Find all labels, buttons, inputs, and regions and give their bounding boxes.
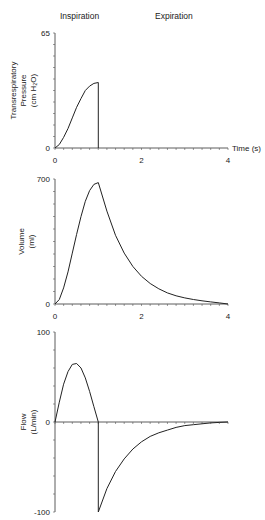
y-tick-label: 0 (46, 418, 51, 427)
y-tick-label: 100 (37, 328, 51, 337)
volume-curve (55, 183, 228, 304)
y-axis-label: Flow (19, 413, 28, 430)
x-tick-label: 0 (53, 312, 58, 321)
x-tick-label: 2 (139, 156, 144, 165)
y-tick-label: 700 (37, 175, 51, 184)
y-axis-label: (cm H₂O) (29, 74, 38, 108)
y-tick-label: 65 (41, 29, 50, 38)
x-axis-label: Time (s) (232, 144, 261, 153)
flow-panel: -1000100Flow(L/min) (19, 328, 228, 517)
pressure-curve (55, 83, 98, 149)
x-tick-label: 2 (139, 312, 144, 321)
inspiration-label: Inspiration (60, 11, 99, 21)
volume-panel: 0700024Volume(ml) (17, 175, 231, 321)
respiratory-waveform-figure: Inspiration Expiration 065024Time (s)Tra… (0, 0, 265, 520)
x-tick-label: 0 (53, 156, 58, 165)
y-axis-label: Volume (17, 228, 26, 255)
y-tick-label: 0 (46, 144, 51, 153)
flow-curve (55, 364, 228, 513)
expiration-label: Expiration (155, 11, 193, 21)
y-axis-label: Pressure (19, 74, 28, 107)
x-tick-label: 4 (226, 312, 231, 321)
y-tick-label: -100 (34, 508, 51, 517)
x-tick-label: 4 (226, 156, 231, 165)
pressure-panel: 065024Time (s)TransrespiratoryPressure(c… (9, 29, 261, 165)
y-axis-label: (L/min) (29, 409, 38, 434)
y-tick-label: 0 (46, 300, 51, 309)
y-axis-label: Transrespiratory (9, 62, 18, 120)
y-axis-label: (ml) (27, 234, 36, 248)
